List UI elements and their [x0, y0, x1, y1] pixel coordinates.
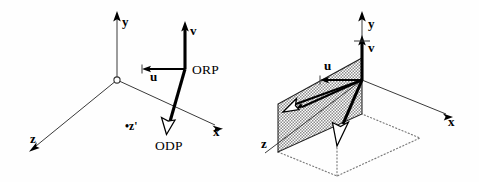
axis-z: [29, 80, 117, 152]
vector-label-v: v: [368, 40, 375, 55]
axis-y: [113, 11, 121, 80]
axis-label-y: y: [122, 14, 129, 29]
vector-label-odp: ODP: [155, 138, 183, 153]
vector-label-u: u: [324, 58, 331, 73]
axis-label-z: z: [261, 136, 267, 151]
axis-label-y: y: [368, 16, 375, 31]
right-diagram: y x z v u: [240, 0, 479, 182]
axis-label-z: z: [30, 131, 36, 146]
axis-label-x: x: [448, 114, 455, 129]
vector-v: [181, 21, 189, 69]
origin-marker: [114, 77, 120, 83]
vector-u: [142, 65, 185, 74]
figure-container: y x z v u ORP ODP •z': [0, 0, 479, 182]
annotation-z-prime: •z': [125, 120, 137, 132]
vector-label-u: u: [150, 69, 157, 84]
vector-label-v: v: [190, 23, 197, 38]
left-diagram: y x z v u ORP ODP •z': [0, 0, 240, 182]
axis-x: [362, 80, 453, 120]
point-label-orp: ORP: [192, 62, 219, 77]
axis-label-x: x: [213, 124, 220, 139]
